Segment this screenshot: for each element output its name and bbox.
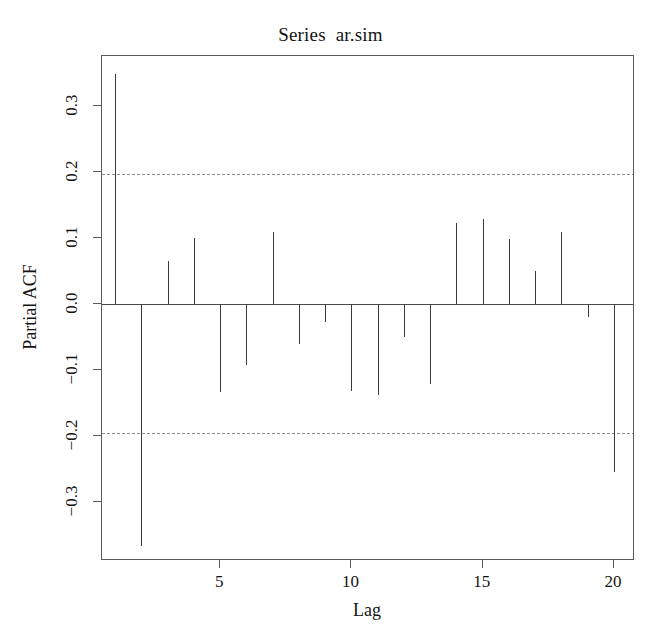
acf-bar-lag-4 [194, 238, 195, 304]
acf-bar-lag-9 [325, 304, 326, 322]
acf-bar-lag-7 [273, 232, 274, 303]
acf-bar-lag-20 [614, 304, 615, 472]
zero-baseline [102, 304, 634, 305]
x-tick [219, 560, 220, 568]
y-tick [93, 369, 101, 370]
acf-bar-lag-1 [115, 74, 116, 303]
x-axis-label: Lag [353, 600, 381, 621]
acf-bar-lag-3 [168, 261, 169, 304]
x-tick [350, 560, 351, 568]
x-tick-label: 10 [342, 572, 359, 592]
chart-title: Series ar.sim [0, 24, 661, 46]
y-tick [93, 435, 101, 436]
acf-bar-lag-14 [456, 223, 457, 304]
acf-bar-lag-18 [561, 232, 562, 303]
y-tick-label: −0.1 [62, 353, 82, 384]
y-tick-label: −0.3 [62, 485, 82, 516]
x-tick [613, 560, 614, 568]
y-tick-label: 0.3 [62, 94, 82, 115]
plot-area [101, 55, 634, 560]
y-tick-label: 0.0 [62, 292, 82, 313]
acf-bar-lag-10 [351, 304, 352, 391]
y-tick [93, 171, 101, 172]
y-axis-label: Partial ACF [20, 264, 41, 350]
acf-bar-lag-11 [378, 304, 379, 395]
y-tick [93, 303, 101, 304]
acf-bar-lag-5 [220, 304, 221, 392]
y-tick [93, 501, 101, 502]
x-tick-label: 15 [473, 572, 490, 592]
y-tick [93, 237, 101, 238]
x-tick [482, 560, 483, 568]
acf-bar-lag-2 [141, 304, 142, 547]
y-tick-label: 0.1 [62, 226, 82, 247]
acf-bar-lag-19 [588, 304, 589, 317]
acf-bar-lag-8 [299, 304, 300, 345]
acf-bar-lag-6 [246, 304, 247, 365]
acf-bar-lag-16 [509, 239, 510, 304]
y-tick-label: −0.2 [62, 419, 82, 450]
x-tick-label: 20 [604, 572, 621, 592]
x-tick-label: 5 [215, 572, 224, 592]
pacf-plot: Series ar.sim −0.3−0.2−0.10.00.10.20.3 5… [0, 0, 661, 641]
confidence-band-lower [102, 433, 634, 434]
acf-bar-lag-17 [535, 271, 536, 304]
confidence-band-upper [102, 174, 634, 175]
y-tick-label: 0.2 [62, 160, 82, 181]
y-tick [93, 105, 101, 106]
acf-bar-lag-13 [430, 304, 431, 385]
acf-bar-lag-12 [404, 304, 405, 337]
acf-bar-lag-15 [483, 219, 484, 303]
